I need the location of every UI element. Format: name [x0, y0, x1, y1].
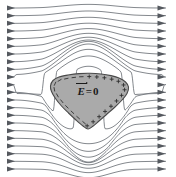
field-arrowhead — [7, 59, 15, 64]
field-arrowhead — [7, 90, 15, 95]
field-arrowhead — [7, 121, 15, 126]
field-arrowhead — [7, 136, 15, 141]
field-arrowhead — [158, 98, 166, 103]
field-arrowhead — [158, 151, 166, 156]
field-arrowhead — [158, 21, 166, 26]
field-arrowhead — [7, 6, 15, 11]
electrostatic-shielding-figure: E=0 — [0, 0, 176, 177]
field-arrowhead — [158, 105, 166, 110]
field-arrowhead — [7, 21, 15, 26]
field-arrowhead — [158, 113, 166, 118]
field-lines-canvas — [0, 0, 176, 177]
field-arrowhead — [158, 67, 166, 72]
field-arrowhead — [7, 67, 15, 72]
field-arrowhead — [158, 136, 166, 141]
field-line — [10, 17, 166, 23]
field-arrowhead — [7, 36, 15, 41]
field-arrowhead — [7, 13, 15, 18]
field-arrowhead — [7, 151, 15, 156]
negative-charge-mark — [72, 77, 76, 78]
field-arrowhead — [158, 6, 166, 11]
field-arrowhead — [158, 13, 166, 18]
field-line — [10, 4, 166, 8]
field-line — [10, 40, 166, 62]
field-arrowhead — [158, 75, 166, 80]
field-arrowhead — [7, 105, 15, 110]
field-arrowhead — [158, 52, 166, 57]
field-line — [10, 154, 166, 169]
field-arrowhead — [158, 167, 166, 172]
field-arrowhead — [158, 159, 166, 164]
field-line — [10, 138, 166, 162]
field-arrowhead — [7, 44, 15, 49]
field-arrowhead — [158, 144, 166, 149]
field-line — [10, 23, 166, 31]
field-arrowhead — [7, 29, 15, 34]
field-arrowhead — [7, 98, 15, 103]
field-arrowhead — [158, 44, 166, 49]
field-arrowhead — [158, 82, 166, 87]
field-arrowhead — [158, 90, 166, 95]
field-arrowhead — [7, 52, 15, 57]
field-arrowhead — [7, 144, 15, 149]
field-arrowhead — [158, 29, 166, 34]
field-arrowhead — [7, 167, 15, 172]
field-arrowhead — [158, 121, 166, 126]
field-arrowhead — [158, 128, 166, 133]
field-line — [10, 11, 166, 16]
field-arrowhead — [7, 113, 15, 118]
field-arrowhead — [158, 36, 166, 41]
field-arrowhead — [7, 128, 15, 133]
field-arrowhead — [158, 59, 166, 64]
field-arrowhead — [7, 75, 15, 80]
field-arrowhead — [7, 159, 15, 164]
